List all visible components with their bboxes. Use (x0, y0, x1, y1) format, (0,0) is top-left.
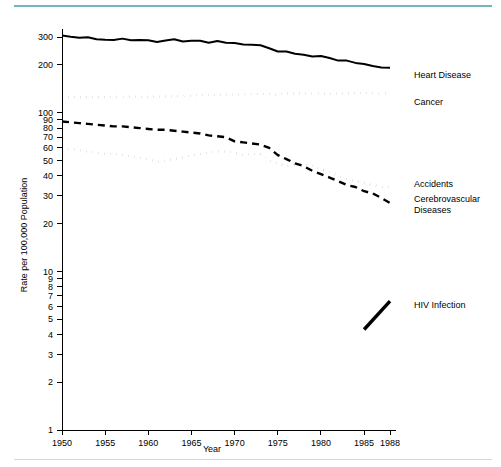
y-tick-label: 3 (48, 350, 53, 360)
y-tick-label: 10 (43, 267, 53, 277)
y-tick-label: 60 (43, 143, 53, 153)
x-axis-title: Year (203, 444, 221, 454)
series-label-hiv-infection: HIV Infection (414, 300, 466, 310)
y-tick-label: 2 (48, 377, 53, 387)
axes-group: 1234567891020304050607080901002003001950… (38, 29, 400, 448)
series-group (62, 35, 390, 329)
x-tick-label: 1988 (380, 438, 400, 448)
y-tick-label: 40 (43, 171, 53, 181)
y-tick-label: 20 (43, 219, 53, 229)
y-tick-label: 30 (43, 191, 53, 201)
y-tick-label: 300 (38, 32, 53, 42)
y-tick-label: 6 (48, 302, 53, 312)
series-line-heart-disease (62, 35, 390, 67)
y-tick-label: 1 (48, 425, 53, 435)
y-tick-label: 5 (48, 314, 53, 324)
y-tick-label: 4 (48, 330, 53, 340)
y-tick-label: 100 (38, 108, 53, 118)
x-tick-label: 1950 (52, 438, 72, 448)
y-tick-label: 200 (38, 60, 53, 70)
figure-root: 1234567891020304050607080901002003001950… (0, 0, 501, 467)
series-label-heart-disease: Heart Disease (414, 70, 471, 80)
x-tick-label: 1975 (268, 438, 288, 448)
series-label-accidents: Accidents (414, 179, 454, 189)
series-labels-group: Heart DiseaseCancerCerebrovascularDiseas… (414, 70, 480, 310)
series-label-cancer: Cancer (414, 97, 443, 107)
x-tick-label: 1970 (225, 438, 245, 448)
y-tick-label: 70 (43, 132, 53, 142)
x-tick-label: 1980 (311, 438, 331, 448)
y-axis-title: Rate per 100,000 Population (19, 178, 29, 293)
x-tick-label: 1955 (95, 438, 115, 448)
y-tick-label: 7 (48, 291, 53, 301)
x-tick-label: 1960 (138, 438, 158, 448)
series-line-hiv-infection (364, 301, 390, 329)
y-tick-label: 50 (43, 156, 53, 166)
series-line-cancer (62, 93, 390, 97)
series-label-cerebrovascular-diseases: CerebrovascularDiseases (414, 194, 480, 215)
x-tick-label: 1965 (181, 438, 201, 448)
x-tick-label: 1985 (354, 438, 374, 448)
series-line-cerebrovascular-diseases (62, 122, 390, 203)
mortality-rate-line-chart: 1234567891020304050607080901002003001950… (0, 0, 501, 467)
